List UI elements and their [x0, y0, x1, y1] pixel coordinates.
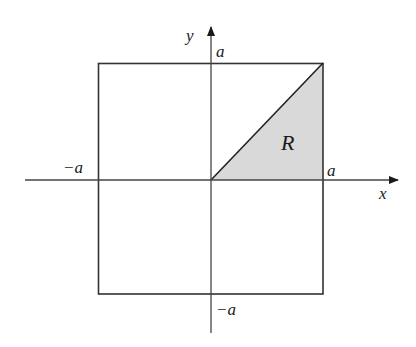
tick-label-y-positive: a: [216, 42, 225, 61]
y-axis-label: y: [184, 26, 194, 45]
region-r-label: R: [280, 130, 295, 155]
tick-label-x-negative: −a: [63, 158, 83, 177]
x-axis-label: x: [378, 184, 387, 203]
tick-label-y-negative: −a: [216, 300, 236, 319]
region-diagram: y x a a −a −a R: [0, 0, 416, 347]
tick-label-x-positive: a: [327, 161, 336, 180]
